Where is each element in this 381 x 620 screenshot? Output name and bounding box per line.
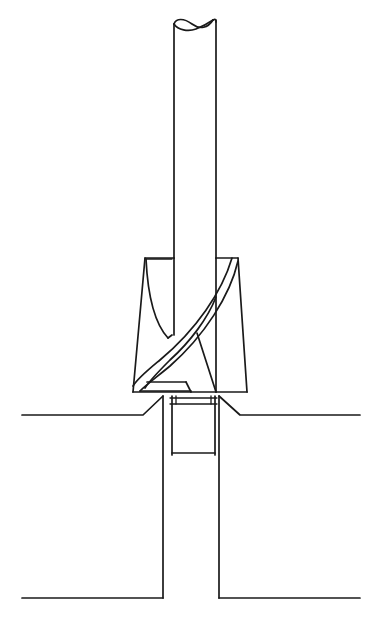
- shank-top-right-cap: [213, 19, 216, 22]
- shank-group: [174, 19, 216, 259]
- pilot-drill-group: [170, 396, 217, 455]
- technical-drawing-figure: [0, 0, 381, 620]
- countersink-cone-fill: [133, 258, 247, 392]
- workpiece-top-surface-right: [219, 396, 360, 415]
- workpiece-top-surface-left: [22, 396, 163, 415]
- countersink-cone-group: [133, 258, 247, 392]
- pilot-drill-body-fill: [172, 396, 215, 455]
- drill-bit-drawing-canvas: [0, 0, 381, 620]
- shank-body-fill: [175, 22, 215, 259]
